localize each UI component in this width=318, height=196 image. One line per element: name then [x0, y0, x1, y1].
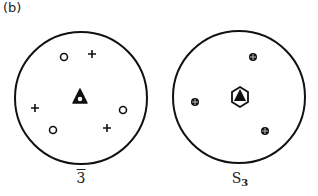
triangle-center-icon	[73, 89, 87, 103]
open-circle-marker	[61, 54, 68, 61]
caption-s3-letter: S	[232, 170, 242, 186]
caption-s3-subscript: 3	[241, 177, 248, 188]
caption-s3: S3	[232, 170, 249, 188]
stereogram-3bar	[15, 32, 147, 164]
plus-marker	[88, 50, 96, 58]
circled-plus-marker	[191, 98, 199, 106]
stereogram-s3	[173, 31, 305, 163]
open-circle-marker	[120, 107, 127, 114]
caption-3bar: 3	[77, 170, 86, 186]
circled-plus-marker	[261, 127, 269, 135]
hexagon-triangle-center-icon	[232, 87, 248, 107]
circled-plus-marker	[249, 53, 257, 61]
plus-marker	[103, 124, 111, 132]
plus-marker	[31, 104, 39, 112]
caption-3bar-text: 3	[77, 170, 86, 186]
open-circle-marker	[50, 127, 57, 134]
stereogram-figure	[0, 0, 318, 196]
